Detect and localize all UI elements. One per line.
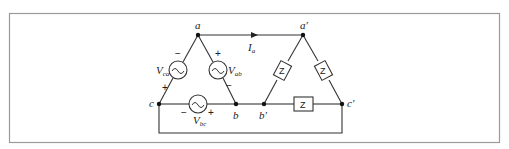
vbc-minus: − [181,107,187,118]
current-label: Ia [247,41,256,55]
vab-plus: + [215,48,221,59]
vbc-plus: + [208,107,214,118]
vab-label: Vab [228,64,242,78]
node-a-prime [301,33,305,37]
node-c-label: c [149,97,154,109]
vca-label: Vca [156,64,170,78]
source-vca [169,61,187,79]
node-b [234,102,238,106]
vab-minus: − [226,80,232,91]
node-b-prime-label: b′ [259,109,268,121]
delta-delta-circuit-figure: Z Z Z a a′ c b b′ c′ Ia Vca − + Vab + − … [0,0,509,149]
node-b-label: b [233,109,239,121]
wire-a-to-vca [183,35,198,62]
figure-frame [10,14,500,143]
vbc-label: Vbc [193,114,207,128]
wire-a-to-vab [198,35,213,62]
wire-a-prime-to-zleft [288,35,303,61]
wire-zright-to-c-prime [329,80,342,104]
impedance-left-label: Z [279,66,285,76]
node-a [196,33,200,37]
wire-a-prime-to-zright [303,35,318,61]
source-vbc [189,95,207,113]
current-arrow-icon [251,32,258,38]
node-a-prime-label: a′ [300,19,309,31]
node-c [157,102,161,106]
impedance-right-label: Z [320,66,326,76]
node-b-prime [262,102,266,106]
wire-zleft-to-b-prime [264,80,277,104]
node-c-prime-label: c′ [347,97,355,109]
impedance-bottom-label: Z [300,100,306,110]
vca-plus: + [162,82,168,93]
node-c-prime [340,102,344,106]
source-vab [209,61,227,79]
node-a-label: a [195,19,201,31]
vca-minus: − [175,48,181,59]
